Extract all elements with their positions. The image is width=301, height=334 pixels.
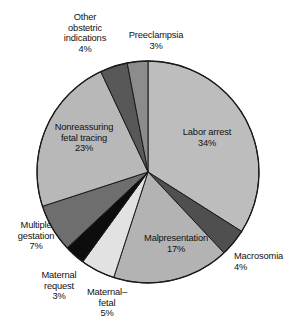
slice-label-line-1: Preeclampsia (118, 30, 194, 41)
slice-value-macrosomia: 4% (234, 262, 300, 273)
slice-label-line-3: indications (48, 33, 122, 44)
slice-label-nonreassuring-fetal-tracing: Nonreassuring fetal tracing 23% (36, 122, 132, 154)
slice-label-line-1: Macrosomia (234, 251, 300, 262)
slice-label-line-2: obstetric (48, 23, 122, 34)
slice-label-line-2: gestation (4, 231, 68, 242)
slice-label-malpresentation: Malpresentation 17% (128, 233, 224, 254)
slice-label-preeclampsia: Preeclampsia 3% (118, 30, 194, 51)
slice-label-labor-arrest: Labor arrest 34% (168, 127, 246, 148)
slice-label-maternal-request: Maternal request 3% (28, 270, 90, 302)
slice-value-preeclampsia: 3% (118, 41, 194, 52)
slice-value-labor-arrest: 34% (168, 138, 246, 149)
slice-label-line-1: Multiple (4, 220, 68, 231)
slice-label-multiple-gestation: Multiple gestation 7% (4, 220, 68, 252)
slice-value-other-obstetric-indications: 4% (48, 44, 122, 55)
slice-label-line-1: Other (48, 12, 122, 23)
pie-chart-figure: Other obstetric indications 4% Preeclamp… (0, 0, 301, 334)
slice-label-line-2: fetal tracing (36, 133, 132, 144)
slice-value-nonreassuring-fetal-tracing: 23% (36, 143, 132, 154)
slice-label-line-1: Labor arrest (168, 127, 246, 138)
slice-label-line-2: request (28, 281, 90, 292)
slice-label-line-1: Malpresentation (128, 233, 224, 244)
slice-value-maternal-fetal: 5% (76, 308, 138, 319)
slice-label-line-1: Nonreassuring (36, 122, 132, 133)
slice-value-multiple-gestation: 7% (4, 241, 68, 252)
slice-label-line-1: Maternal (28, 270, 90, 281)
slice-value-malpresentation: 17% (128, 244, 224, 255)
slice-value-maternal-request: 3% (28, 291, 90, 302)
slice-label-macrosomia: Macrosomia 4% (234, 251, 300, 272)
slice-label-other-obstetric-indications: Other obstetric indications 4% (48, 12, 122, 54)
